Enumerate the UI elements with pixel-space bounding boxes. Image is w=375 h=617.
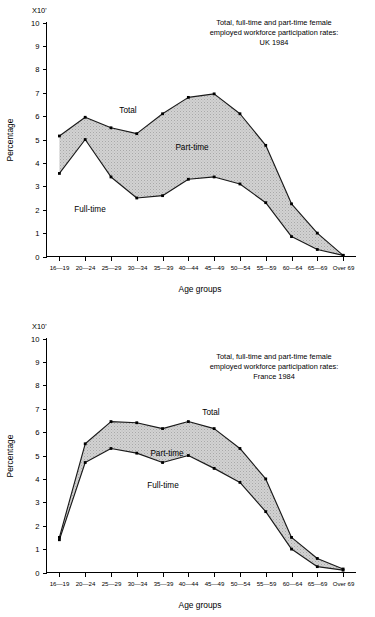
x-tick-label: Over 69 (333, 264, 355, 271)
x-tick-label: 50—54 (231, 264, 251, 271)
data-point (290, 536, 293, 539)
uk-y-tick-labels: 012345678910 (31, 19, 39, 262)
uk-chart-title-line1: Total, full-time and part-time female (216, 18, 331, 27)
data-point (84, 116, 87, 119)
y-tick-label: 0 (35, 253, 39, 262)
data-point (58, 538, 61, 541)
chart-uk-1984: 012345678910 16—1920—2425—2930—3435—3940… (0, 0, 375, 308)
fr-part-time-band (59, 422, 343, 571)
x-tick-label: 20—24 (76, 264, 96, 271)
data-point (187, 454, 190, 457)
data-point (290, 202, 293, 205)
data-point (342, 569, 345, 572)
chart-france-svg: 012345678910 16—1920—2425—2930—3435—3940… (0, 309, 375, 617)
y-tick-label: 1 (35, 545, 39, 554)
data-point (110, 176, 113, 179)
fr-label-total: Total (202, 408, 219, 417)
x-tick-label: 16—19 (50, 580, 70, 587)
data-point (213, 427, 216, 430)
y-tick-label: 10 (31, 19, 39, 28)
data-point (213, 92, 216, 95)
data-point (316, 565, 319, 568)
fr-y-axis-title: Percentage (5, 434, 15, 477)
x-tick-label: 65—69 (308, 580, 328, 587)
chart-france-1984: 012345678910 16—1920—2425—2930—3435—3940… (0, 309, 375, 617)
fr-chart-title-line3: France 1984 (253, 372, 295, 381)
fr-axis-multiplier: X10' (32, 322, 47, 331)
data-point (58, 172, 61, 175)
y-tick-label: 3 (35, 182, 39, 191)
x-tick-label: 40—44 (179, 580, 199, 587)
y-tick-label: 2 (35, 206, 39, 215)
data-point (84, 138, 87, 141)
y-tick-label: 5 (35, 136, 39, 145)
data-point (264, 201, 267, 204)
fr-y-tick-labels: 012345678910 (31, 335, 39, 578)
y-tick-label: 0 (35, 569, 39, 578)
x-tick-label: 45—49 (205, 580, 225, 587)
data-point (135, 132, 138, 135)
data-point (135, 452, 138, 455)
data-point (110, 126, 113, 129)
x-tick-label: 40—44 (179, 264, 199, 271)
x-tick-label: 55—59 (257, 264, 277, 271)
y-tick-label: 7 (35, 405, 39, 414)
uk-y-axis-title: Percentage (5, 118, 15, 161)
data-point (187, 420, 190, 423)
data-point (58, 135, 61, 138)
uk-y-ticks (43, 24, 47, 258)
data-point (161, 194, 164, 197)
data-point (264, 144, 267, 147)
x-tick-label: 30—34 (128, 580, 148, 587)
data-point (239, 481, 242, 484)
x-tick-label: 35—39 (154, 264, 174, 271)
uk-chart-title-line3: UK 1984 (260, 38, 289, 47)
data-point (213, 176, 216, 179)
data-point (239, 183, 242, 186)
fr-x-tick-labels: 16—1920—2425—2930—3435—3940—4445—4950—54… (50, 580, 355, 587)
x-tick-label: 16—19 (50, 264, 70, 271)
fr-chart-title-line1: Total, full-time and part-time female (216, 352, 331, 361)
uk-axis-multiplier: X10' (32, 6, 47, 15)
fr-x-ticks (60, 573, 344, 577)
y-tick-label: 5 (35, 452, 39, 461)
data-point (290, 235, 293, 238)
uk-x-axis-title: Age groups (179, 284, 222, 294)
x-tick-label: 55—59 (257, 580, 277, 587)
x-tick-label: 20—24 (76, 580, 96, 587)
chart-uk-svg: 012345678910 16—1920—2425—2930—3435—3940… (0, 0, 375, 308)
uk-label-full-time: Full-time (74, 205, 106, 214)
uk-x-ticks (60, 257, 344, 261)
data-point (316, 248, 319, 251)
data-point (161, 461, 164, 464)
y-tick-label: 8 (35, 381, 39, 390)
data-point (187, 178, 190, 181)
data-point (213, 467, 216, 470)
y-tick-label: 3 (35, 498, 39, 507)
data-point (264, 478, 267, 481)
y-tick-label: 4 (35, 475, 39, 484)
y-tick-label: 2 (35, 522, 39, 531)
data-point (161, 112, 164, 115)
x-tick-label: 25—29 (102, 580, 122, 587)
data-point (316, 232, 319, 235)
y-tick-label: 8 (35, 65, 39, 74)
y-tick-label: 10 (31, 335, 39, 344)
y-tick-label: 9 (35, 358, 39, 367)
y-tick-label: 1 (35, 229, 39, 238)
data-point (290, 548, 293, 551)
x-tick-label: 45—49 (205, 264, 225, 271)
x-tick-label: 30—34 (128, 264, 148, 271)
x-tick-label: 35—39 (154, 580, 174, 587)
fr-label-full-time: Full-time (147, 481, 179, 490)
fr-chart-title-line2: employed workforce participation rates: (210, 362, 339, 371)
x-tick-label: 50—54 (231, 580, 251, 587)
data-point (135, 197, 138, 200)
fr-label-part-time: Part-time (150, 449, 184, 458)
data-point (264, 510, 267, 513)
data-point (316, 557, 319, 560)
x-tick-label: 60—64 (283, 580, 303, 587)
data-point (187, 96, 190, 99)
uk-label-part-time: Part-time (175, 143, 209, 152)
x-tick-label: Over 69 (333, 580, 355, 587)
